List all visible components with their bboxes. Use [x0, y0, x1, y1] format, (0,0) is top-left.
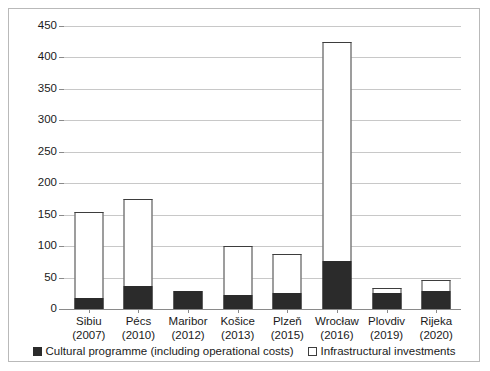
bar-segment-infrastructural[interactable]: [422, 280, 451, 291]
bar-segment-infrastructural[interactable]: [74, 212, 103, 298]
y-axis-tick-label: 250: [38, 146, 57, 158]
x-axis-year: (2020): [399, 328, 473, 342]
legend-entry[interactable]: Infrastructural investments: [308, 345, 456, 357]
bar-segment-cultural[interactable]: [124, 286, 153, 309]
plot-area: 050100150200250300350400450: [64, 26, 461, 309]
x-tick-mark: [287, 309, 288, 313]
bar-segment-infrastructural[interactable]: [223, 246, 252, 294]
y-axis-tick-label: 150: [38, 209, 57, 221]
bar-stack: [322, 42, 351, 309]
filled-square-icon: [33, 347, 42, 356]
x-tick-mark: [387, 309, 388, 313]
x-tick-mark: [188, 309, 189, 313]
y-axis-tick-label: 100: [38, 240, 57, 252]
bar-group[interactable]: [422, 280, 451, 309]
x-tick-mark: [138, 309, 139, 313]
bar-group[interactable]: [74, 212, 103, 309]
x-tick-mark: [238, 309, 239, 313]
chart-legend: Cultural programme (including operationa…: [9, 345, 479, 357]
y-axis-tick-label: 400: [38, 52, 57, 64]
legend-label: Infrastructural investments: [321, 345, 456, 357]
chart-figure: 050100150200250300350400450 Sibiu(2007)P…: [8, 8, 480, 362]
bar-group[interactable]: [273, 254, 302, 309]
y-axis-tick-label: 300: [38, 115, 57, 127]
bar-group[interactable]: [322, 42, 351, 309]
x-tick-mark: [337, 309, 338, 313]
bar-group[interactable]: [174, 291, 203, 309]
bar-segment-cultural[interactable]: [174, 291, 203, 309]
bar-segment-cultural[interactable]: [372, 293, 401, 309]
bar-stack: [223, 246, 252, 309]
legend-label: Cultural programme (including operationa…: [46, 345, 294, 357]
bar-segment-cultural[interactable]: [322, 261, 351, 309]
x-tick-mark: [89, 309, 90, 313]
bar-segment-infrastructural[interactable]: [273, 254, 302, 293]
bar-stack: [74, 212, 103, 309]
bar-group[interactable]: [372, 288, 401, 309]
bar-stack: [174, 291, 203, 309]
x-axis-city-name: Pécs: [126, 315, 152, 327]
bar-segment-cultural[interactable]: [74, 298, 103, 309]
y-axis-tick-label: 200: [38, 177, 57, 189]
legend-entry[interactable]: Cultural programme (including operationa…: [33, 345, 294, 357]
x-axis: Sibiu(2007)Pécs(2010)Maribor(2012)Košice…: [64, 309, 461, 345]
x-axis-city-name: Sibiu: [76, 315, 102, 327]
bar-segment-infrastructural[interactable]: [322, 42, 351, 261]
bar-segment-cultural[interactable]: [422, 291, 451, 309]
bar-stack: [124, 199, 153, 309]
bars-layer: [64, 26, 461, 309]
x-axis-city-name: Plzeň: [273, 315, 302, 327]
bar-stack: [372, 288, 401, 309]
x-axis-category-label: Rijeka(2020): [399, 314, 473, 342]
bar-segment-infrastructural[interactable]: [124, 199, 153, 286]
y-axis-tick-label: 50: [44, 272, 57, 284]
bar-stack: [273, 254, 302, 309]
x-axis-city-name: Rijeka: [420, 315, 452, 327]
bar-segment-cultural[interactable]: [273, 293, 302, 309]
y-axis-tick-label: 350: [38, 83, 57, 95]
x-tick-mark: [436, 309, 437, 313]
y-axis-tick-label: 450: [38, 20, 57, 32]
hollow-square-icon: [308, 347, 317, 356]
bar-segment-cultural[interactable]: [223, 295, 252, 309]
bar-stack: [422, 280, 451, 309]
bar-group[interactable]: [223, 246, 252, 309]
bar-group[interactable]: [124, 199, 153, 309]
